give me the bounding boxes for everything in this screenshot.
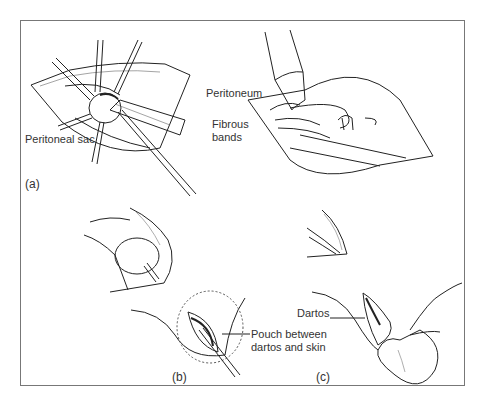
panel-c-drawing	[312, 283, 462, 384]
label-dartos: Dartos	[297, 307, 329, 319]
panel-b-upper-drawing	[84, 208, 172, 292]
panel-label-a: (a)	[25, 177, 40, 191]
label-pouch-line2: dartos and skin	[251, 341, 326, 353]
panel-a-right-drawing	[248, 30, 433, 174]
panel-b-drawing	[131, 291, 250, 377]
panel-label-b: (b)	[172, 370, 187, 384]
panel-label-c: (c)	[316, 370, 330, 384]
surgical-illustration	[0, 0, 484, 410]
label-peritoneum: Peritoneum	[206, 87, 262, 99]
label-pouch-line1: Pouch between	[251, 328, 327, 340]
panel-a-left-drawing	[31, 40, 196, 196]
label-fibrous-bands-line2: bands	[212, 131, 242, 143]
label-peritoneal-sac: Peritoneal sac	[25, 133, 95, 145]
label-fibrous-bands-line1: Fibrous	[212, 118, 249, 130]
panel-c-upper-drawing	[307, 210, 347, 257]
